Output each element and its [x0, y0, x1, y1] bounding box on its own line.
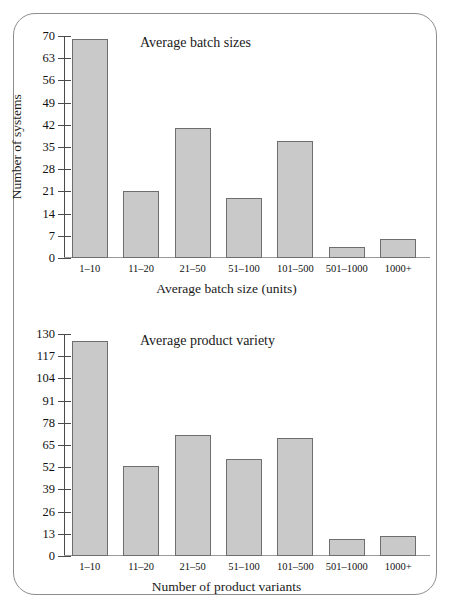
y-axis-tick-label: 117: [37, 350, 55, 363]
y-axis-tick: [58, 467, 71, 468]
y-axis-tick: [58, 103, 71, 104]
y-axis-tick: [58, 191, 71, 192]
y-axis-tick: [58, 36, 71, 37]
x-axis-category-label: 11–20: [128, 562, 154, 573]
y-axis-tick-label: 56: [43, 74, 56, 87]
bar: [277, 438, 313, 556]
bar: [175, 128, 211, 258]
y-axis-tick: [58, 534, 71, 535]
y-axis-tick: [58, 423, 71, 424]
y-axis-tick: [58, 334, 71, 335]
chart-average-batch-sizes: Average batch sizes Number of systems 07…: [0, 0, 453, 306]
y-axis-tick: [58, 489, 71, 490]
y-axis-tick: [58, 401, 71, 402]
x-axis-category-label: 21–50: [179, 562, 205, 573]
bar: [72, 39, 108, 258]
figure-page: Average batch sizes Number of systems 07…: [0, 0, 453, 613]
bar: [277, 141, 313, 258]
y-axis-tick-label: 91: [43, 394, 56, 407]
x-axis-title: Number of product variants: [0, 580, 453, 594]
x-axis-category-label: 101–500: [277, 264, 314, 275]
x-axis-category-label: 1–10: [79, 264, 100, 275]
y-axis-tick-label: 52: [43, 461, 56, 474]
y-axis-tick-label: 7: [49, 230, 55, 243]
y-axis-tick: [58, 58, 71, 59]
y-axis-tick: [58, 356, 71, 357]
y-axis-tick-label: 13: [43, 528, 56, 541]
bar: [380, 239, 416, 258]
y-axis-tick: [58, 147, 71, 148]
y-axis-tick-label: 70: [43, 30, 56, 43]
plot-area: 071421283542495663701–1011–2021–5051–100…: [64, 36, 424, 258]
y-axis-tick: [58, 125, 71, 126]
bar: [72, 341, 108, 556]
x-axis-category-label: 501–1000: [326, 562, 368, 573]
x-axis-category-label: 21–50: [179, 264, 205, 275]
y-axis-tick-label: 28: [43, 163, 56, 176]
bar: [226, 459, 262, 556]
x-axis-category-label: 1000+: [385, 562, 412, 573]
x-axis-category-label: 501–1000: [326, 264, 368, 275]
y-axis-tick-label: 39: [43, 483, 56, 496]
bar: [380, 536, 416, 556]
chart-average-product-variety: Average product variety 0132639526578911…: [0, 306, 453, 613]
y-axis-tick: [58, 236, 71, 237]
bar: [226, 198, 262, 258]
x-axis-category-label: 51–100: [228, 562, 260, 573]
bar: [175, 435, 211, 556]
y-axis-tick-label: 35: [43, 141, 56, 154]
x-axis-category-label: 1000+: [385, 264, 412, 275]
x-axis-title: Average batch size (units): [0, 282, 453, 296]
x-axis-category-label: 101–500: [277, 562, 314, 573]
bar: [329, 247, 365, 258]
x-axis-category-label: 11–20: [128, 264, 154, 275]
y-axis-tick: [58, 80, 71, 81]
bar: [329, 539, 365, 556]
y-axis-tick: [58, 378, 71, 379]
y-axis-tick: [58, 258, 71, 259]
y-axis-tick-label: 26: [43, 505, 56, 518]
y-axis-tick-label: 0: [49, 550, 55, 563]
x-axis-category-label: 1–10: [79, 562, 100, 573]
y-axis-title: Number of systems: [10, 87, 24, 207]
y-axis-tick-label: 130: [36, 328, 55, 341]
y-axis-tick: [58, 556, 71, 557]
bar: [123, 191, 159, 258]
y-axis-tick: [58, 169, 71, 170]
bar: [123, 466, 159, 557]
y-axis-tick-label: 63: [43, 52, 56, 65]
y-axis-tick-label: 21: [43, 185, 56, 198]
y-axis-tick: [58, 214, 71, 215]
plot-area: 0132639526578911041171301–1011–2021–5051…: [64, 334, 424, 556]
y-axis-tick: [58, 512, 71, 513]
x-axis-category-label: 51–100: [228, 264, 260, 275]
y-axis-tick-label: 42: [43, 119, 56, 132]
y-axis-tick-label: 65: [43, 439, 56, 452]
y-axis-tick-label: 104: [36, 372, 55, 385]
y-axis-tick-label: 0: [49, 252, 55, 265]
y-axis-tick: [58, 445, 71, 446]
y-axis-tick-label: 49: [43, 96, 56, 109]
y-axis-tick-label: 14: [43, 207, 56, 220]
y-axis-tick-label: 78: [43, 417, 56, 430]
